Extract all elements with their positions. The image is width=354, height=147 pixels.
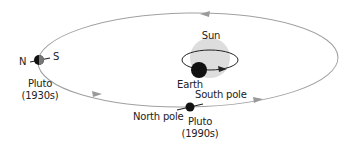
pluto-1990-year: (1990s) — [181, 128, 218, 139]
south-label: S — [53, 51, 59, 62]
orbit-arrow-lower-left-icon — [92, 91, 102, 97]
pluto-orbit — [37, 10, 339, 109]
pluto-1990 — [186, 103, 195, 112]
pluto-orbit-diagram — [0, 0, 354, 147]
orbit-arrow-top-icon — [200, 11, 210, 17]
south-pole-label: South pole — [195, 89, 247, 100]
north-label: N — [19, 56, 26, 67]
sun-label: Sun — [202, 30, 220, 41]
north-pole-label: North pole — [133, 111, 184, 122]
pluto-1930-name: Pluto — [28, 78, 52, 89]
earth — [191, 62, 207, 78]
pluto-1930-year: (1930s) — [21, 90, 58, 101]
pluto-1990-name: Pluto — [188, 116, 212, 127]
